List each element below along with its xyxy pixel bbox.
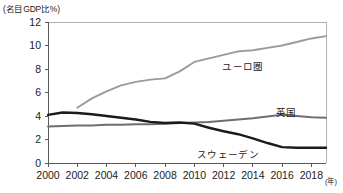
y-tick-label: 4 xyxy=(35,110,41,122)
plot-frame xyxy=(48,22,326,163)
y-tick-label: 10 xyxy=(29,39,41,51)
x-tick-label: 2014 xyxy=(241,169,265,181)
series-lines xyxy=(48,36,326,148)
series-line xyxy=(77,36,326,108)
x-tick-label: 2002 xyxy=(66,169,90,181)
x-tick-label: 2000 xyxy=(36,169,60,181)
x-axis-unit-label: (年) xyxy=(325,176,337,186)
x-tick-label: 2012 xyxy=(212,169,236,181)
series-label-uk: 英国 xyxy=(276,107,297,118)
y-tick-label: 12 xyxy=(29,16,41,28)
chart-container: (名目GDP比%) 024681012 20002002200420062008… xyxy=(0,0,343,193)
series-label-sweden: スウェーデン xyxy=(197,149,259,160)
series-label-eurozone: ユーロ圏 xyxy=(222,61,263,72)
y-axis-ticks: 024681012 xyxy=(29,16,48,169)
x-tick-label: 2010 xyxy=(183,169,207,181)
x-tick-label: 2018 xyxy=(300,169,324,181)
x-axis-ticks: 2000200220042006200820102012201420162018 xyxy=(36,163,323,181)
y-tick-label: 6 xyxy=(35,86,41,98)
line-chart-plot: 024681012 200020022004200620082010201220… xyxy=(0,0,343,193)
x-tick-label: 2016 xyxy=(270,169,294,181)
x-tick-label: 2006 xyxy=(124,169,148,181)
x-tick-label: 2008 xyxy=(153,169,177,181)
y-tick-label: 2 xyxy=(35,133,41,145)
y-tick-label: 8 xyxy=(35,63,41,75)
x-tick-label: 2004 xyxy=(95,169,119,181)
y-tick-label: 0 xyxy=(35,157,41,169)
